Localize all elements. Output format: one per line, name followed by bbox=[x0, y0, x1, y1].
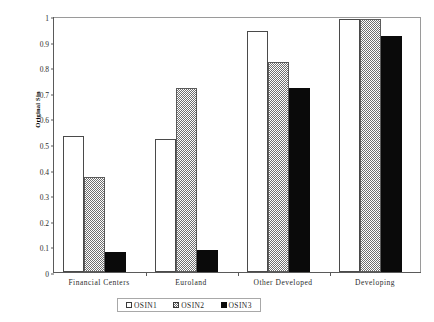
bar-osin2-developing[interactable] bbox=[360, 19, 381, 272]
y-tick-mark bbox=[51, 248, 54, 249]
legend-label: OSIN1 bbox=[134, 301, 157, 310]
bar-osin2-other-developed[interactable] bbox=[268, 62, 289, 272]
y-tick-mark bbox=[51, 94, 54, 95]
chart-figure: Original Sin 00.10.20.30.40.50.60.70.80.… bbox=[0, 0, 434, 322]
category-separator bbox=[238, 272, 239, 276]
legend-item-osin2[interactable]: OSIN2 bbox=[173, 301, 204, 310]
bar-osin2-financial-centers[interactable] bbox=[84, 177, 105, 272]
y-tick-mark bbox=[51, 43, 54, 44]
y-tick-mark bbox=[51, 69, 54, 70]
legend-item-osin3[interactable]: OSIN3 bbox=[221, 301, 252, 310]
y-tick-mark bbox=[51, 120, 54, 121]
bar-osin1-other-developed[interactable] bbox=[247, 31, 268, 272]
legend-swatch-icon bbox=[173, 302, 179, 308]
category-separator bbox=[146, 272, 147, 276]
y-tick-mark bbox=[51, 171, 54, 172]
y-tick-mark bbox=[51, 274, 54, 275]
y-axis-title: Original Sin bbox=[34, 75, 41, 145]
legend-label: OSIN2 bbox=[181, 301, 204, 310]
y-tick-mark bbox=[51, 222, 54, 223]
category-separator bbox=[330, 272, 331, 276]
y-tick-mark bbox=[51, 18, 54, 19]
legend-swatch-icon bbox=[221, 302, 227, 308]
x-tick-label: Developing bbox=[355, 278, 395, 287]
y-tick-mark bbox=[51, 146, 54, 147]
legend-swatch-icon bbox=[126, 302, 132, 308]
y-tick-mark bbox=[51, 197, 54, 198]
x-tick-label: Financial Centers bbox=[68, 278, 129, 287]
bar-osin1-euroland[interactable] bbox=[155, 139, 176, 272]
legend-label: OSIN3 bbox=[229, 301, 252, 310]
chart-legend: OSIN1OSIN2OSIN3 bbox=[117, 298, 261, 312]
legend-item-osin1[interactable]: OSIN1 bbox=[126, 301, 157, 310]
bar-osin3-other-developed[interactable] bbox=[289, 88, 310, 272]
bar-osin1-financial-centers[interactable] bbox=[63, 136, 84, 272]
x-tick-label: Euroland bbox=[175, 278, 207, 287]
bar-osin3-developing[interactable] bbox=[381, 36, 402, 272]
bar-osin2-euroland[interactable] bbox=[176, 88, 197, 272]
plot-area: 00.10.20.30.40.50.60.70.80.91 bbox=[53, 17, 421, 273]
bar-osin3-euroland[interactable] bbox=[197, 250, 218, 272]
bar-osin3-financial-centers[interactable] bbox=[105, 252, 126, 272]
bar-osin1-developing[interactable] bbox=[339, 19, 360, 272]
x-tick-label: Other Developed bbox=[254, 278, 313, 287]
